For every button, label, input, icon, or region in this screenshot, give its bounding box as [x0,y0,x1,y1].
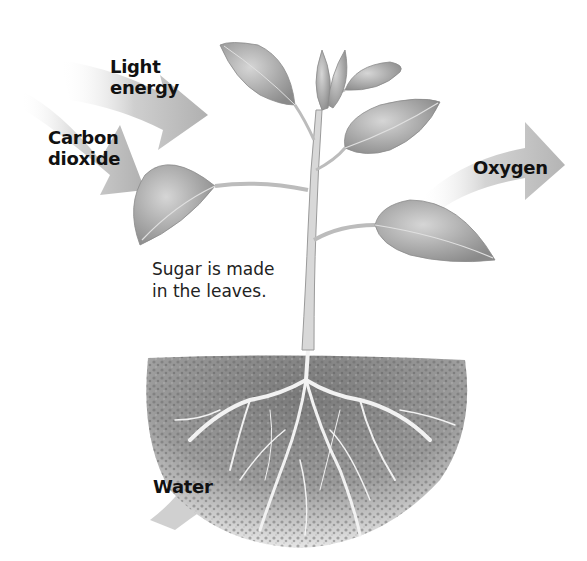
label-light-energy-line2: energy [110,77,179,98]
leaf-right-lower [375,200,495,262]
label-oxygen-line1: Oxygen [473,157,548,178]
label-carbon-dioxide-line1: Carbon [48,127,120,148]
label-oxygen: Oxygen [473,157,548,178]
label-carbon-dioxide: Carbon dioxide [48,127,120,169]
caption-sugar: Sugar is made in the leaves. [152,258,274,302]
label-water-line1: Water [153,476,213,497]
label-light-energy-line1: Light [110,56,179,77]
plant-illustration [0,0,587,561]
leaf-top-right [345,62,401,90]
label-water: Water [153,476,213,497]
leaf-top-left [220,43,295,106]
label-light-energy: Light energy [110,56,179,98]
caption-line1: Sugar is made [152,258,274,280]
photosynthesis-diagram: Light energy Carbon dioxide Oxygen Water… [0,0,587,561]
caption-line2: in the leaves. [152,280,274,302]
leaf-left [134,165,215,245]
label-carbon-dioxide-line2: dioxide [48,148,120,169]
leaf-bud-2 [328,50,347,108]
leaf-right-middle [344,99,440,153]
